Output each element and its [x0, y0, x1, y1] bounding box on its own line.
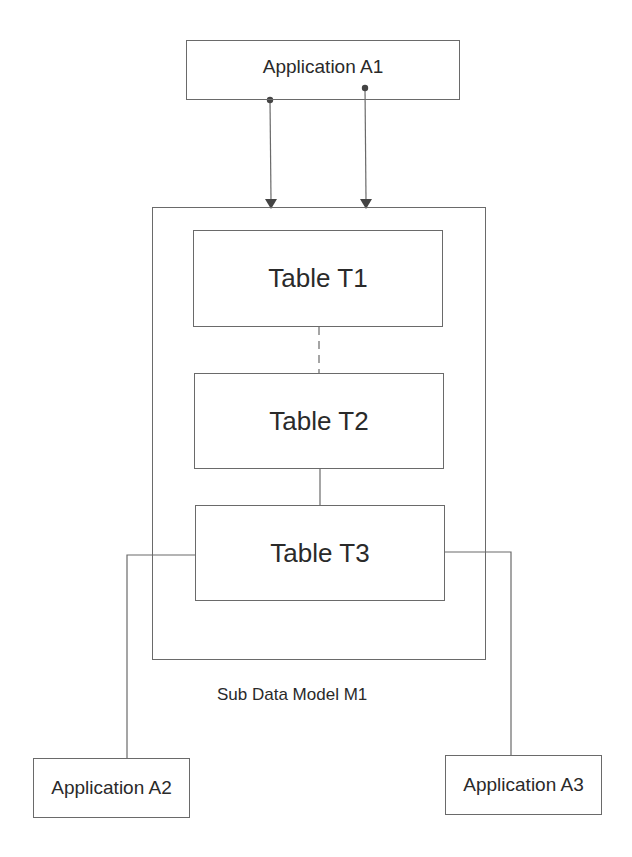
application-a3-label: Application A3 [463, 774, 583, 796]
arrow-a1-to-model-right [365, 88, 366, 200]
application-a3-box: Application A3 [445, 755, 602, 815]
table-t2-box: Table T2 [194, 373, 444, 469]
table-t3-label: Table T3 [270, 538, 369, 569]
arrow-a1-to-model-left [270, 100, 271, 200]
table-t1-box: Table T1 [193, 230, 443, 327]
application-a2-label: Application A2 [51, 777, 171, 799]
sub-data-model-label: Sub Data Model M1 [217, 685, 367, 705]
application-a1-label: Application A1 [263, 56, 383, 78]
table-t2-label: Table T2 [269, 406, 368, 437]
application-a1-box: Application A1 [186, 40, 460, 100]
table-t3-box: Table T3 [195, 505, 445, 601]
table-t1-label: Table T1 [268, 263, 367, 294]
application-a2-box: Application A2 [33, 758, 190, 818]
